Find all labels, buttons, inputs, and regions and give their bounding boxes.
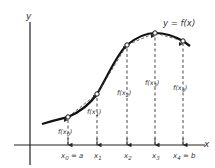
x-axis-label: x <box>203 139 210 149</box>
svg-text:x2: x2 <box>123 152 132 161</box>
svg-text:f(x0): f(x0) <box>58 128 72 137</box>
function-curve <box>42 33 190 124</box>
svg-text:f(x1): f(x1) <box>87 108 101 117</box>
svg-text:x1: x1 <box>93 152 102 161</box>
svg-text:x0 = a: x0 = a <box>60 152 83 161</box>
ordinate-labels: f(x0) f(x1) f(x2) f(x3) f(x4) <box>58 79 187 137</box>
function-label: y = f(x) <box>162 18 195 28</box>
sample-points <box>66 31 185 119</box>
y-axis-label: y <box>25 11 32 21</box>
svg-text:f(x4): f(x4) <box>173 84 187 93</box>
trapezoid-rule-diagram: y x y = f(x) f(x0) f(x1) f(x2) f(x3) f(x… <box>0 0 215 168</box>
ordinate-base-arrows <box>68 138 183 145</box>
x-tick-labels: x0 = a x1 x2 x3 x4 = b <box>60 152 196 161</box>
svg-text:x3: x3 <box>151 152 160 161</box>
svg-text:f(x2): f(x2) <box>117 89 131 98</box>
svg-text:f(x3): f(x3) <box>145 79 159 88</box>
svg-text:x4 = b: x4 = b <box>172 152 196 161</box>
